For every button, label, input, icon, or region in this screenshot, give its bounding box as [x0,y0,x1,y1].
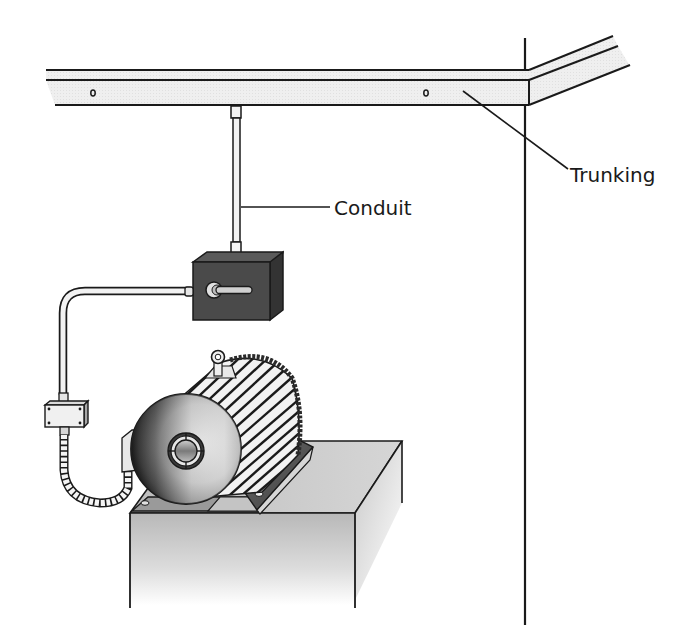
isolator-switch [193,252,283,320]
junction-box [45,401,88,435]
conduit-label: Conduit [334,196,412,220]
trunking [46,36,630,105]
conduit [231,106,241,256]
motor-shaft [168,433,204,469]
conduit-callout: Conduit [241,196,412,220]
rigid-conduit-bend [59,287,193,403]
trunking-label: Trunking [569,163,655,187]
wiring-diagram: Trunking Conduit [0,0,698,632]
flexible-conduit [64,435,128,503]
